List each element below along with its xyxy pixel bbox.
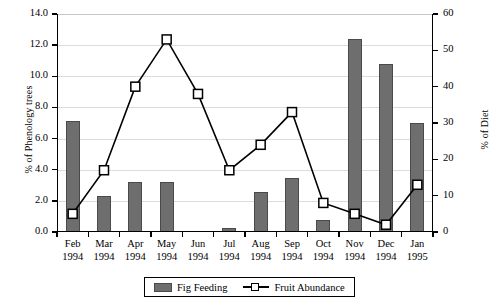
bar-swatch-icon: [154, 283, 172, 292]
y-axis-right-tick: [433, 50, 438, 51]
y-axis-right-tick-label: 0: [443, 225, 487, 236]
x-axis-tick: [370, 232, 371, 237]
line-marker-swatch-icon: [243, 282, 269, 292]
y-axis-right-tick: [433, 195, 438, 196]
y-axis-right-tick: [433, 231, 438, 232]
y-axis-right-tick-label: 10: [443, 189, 487, 200]
y-axis-left-tick-label: 2.0: [4, 194, 48, 205]
y-axis-left-tick-label: 8.0: [4, 100, 48, 111]
legend-label-fruit-abundance: Fruit Abundance: [274, 282, 344, 293]
x-axis-tick: [276, 232, 277, 237]
x-axis-tick: [182, 232, 183, 237]
x-axis-tick: [150, 232, 151, 237]
legend-item-fruit-abundance: Fruit Abundance: [243, 282, 344, 293]
y-axis-left-tick-label: 4.0: [4, 163, 48, 174]
y-axis-right-title: % of Diet: [479, 50, 490, 210]
chart-legend: Fig Feeding Fruit Abundance: [144, 277, 355, 297]
x-axis-tick: [401, 232, 402, 237]
y-axis-right-tick: [433, 13, 438, 14]
legend-label-fig-feeding: Fig Feeding: [177, 282, 227, 293]
y-axis-left-tick-label: 0.0: [4, 225, 48, 236]
plot-area: 0.02.04.06.08.010.012.014.0 010203040506…: [57, 14, 433, 232]
y-axis-left-tick-label: 14.0: [4, 7, 48, 18]
plot-frame: [57, 14, 433, 232]
x-axis-tick: [338, 232, 339, 237]
x-axis-tick: [88, 232, 89, 237]
y-axis-right-tick: [433, 159, 438, 160]
x-axis-tick-label: Jan1995: [395, 238, 439, 263]
y-axis-left-tick-label: 10.0: [4, 69, 48, 80]
y-axis-right-tick-label: 60: [443, 7, 487, 18]
y-axis-right-tick: [433, 122, 438, 123]
y-axis-right-tick-label: 50: [443, 43, 487, 54]
x-axis-tick: [213, 232, 214, 237]
x-axis-tick: [432, 232, 433, 237]
y-axis-left-tick-label: 6.0: [4, 132, 48, 143]
y-axis-right-tick: [433, 86, 438, 87]
x-axis-tick: [244, 232, 245, 237]
y-axis-right-tick-label: 20: [443, 152, 487, 163]
x-axis-tick: [119, 232, 120, 237]
y-axis-right-tick-label: 40: [443, 80, 487, 91]
legend-item-fig-feeding: Fig Feeding: [154, 282, 227, 293]
y-axis-left-tick-label: 12.0: [4, 38, 48, 49]
y-axis-right-tick-label: 30: [443, 116, 487, 127]
x-axis-tick: [307, 232, 308, 237]
chart-container: % of Phenology trees % of Diet 0.02.04.0…: [0, 0, 491, 305]
x-axis-tick: [56, 232, 57, 237]
